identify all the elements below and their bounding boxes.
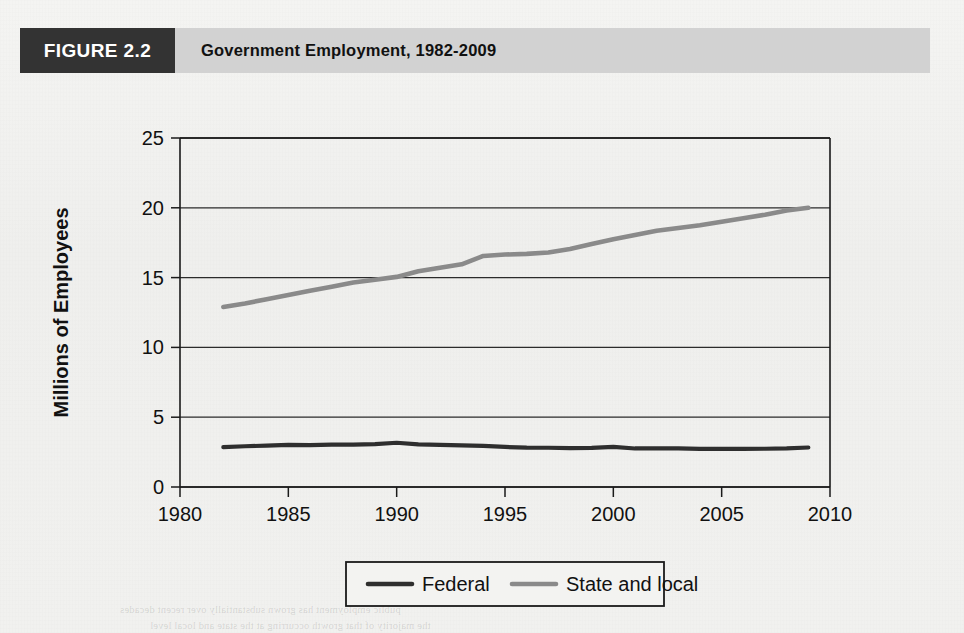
legend-label-1: State and local: [566, 573, 698, 595]
xtick-label-2000: 2000: [591, 503, 636, 525]
figure-header: FIGURE 2.2 Government Employment, 1982-2…: [20, 28, 930, 73]
ytick-label-25: 25: [142, 127, 164, 149]
xtick-label-2010: 2010: [808, 503, 853, 525]
axes-group: [171, 138, 830, 497]
figure-title: Government Employment, 1982-2009: [175, 28, 930, 73]
ytick-label-15: 15: [142, 267, 164, 289]
chart-legend: FederalState and local: [346, 562, 698, 606]
legend-label-0: Federal: [422, 573, 490, 595]
xtick-label-1995: 1995: [483, 503, 528, 525]
y-axis-title-group: Millions of Employees: [50, 207, 72, 417]
series-line-federal: [223, 443, 808, 449]
xtick-label-2005: 2005: [699, 503, 744, 525]
ytick-label-0: 0: [153, 476, 164, 498]
line-chart: 05101520251980198519901995200020052010 M…: [0, 80, 964, 633]
data-series-group: [223, 208, 808, 449]
ytick-label-10: 10: [142, 336, 164, 358]
xtick-label-1980: 1980: [158, 503, 203, 525]
xtick-label-1990: 1990: [374, 503, 419, 525]
grid-lines-group: [180, 138, 830, 487]
tick-labels-group: 05101520251980198519901995200020052010: [142, 127, 853, 525]
series-line-state-and-local: [223, 208, 808, 307]
ytick-label-20: 20: [142, 197, 164, 219]
xtick-label-1985: 1985: [266, 503, 311, 525]
chart-container: 05101520251980198519901995200020052010 M…: [0, 80, 964, 633]
y-axis-title: Millions of Employees: [50, 207, 72, 417]
figure-number-badge: FIGURE 2.2: [20, 28, 175, 73]
ytick-label-5: 5: [153, 406, 164, 428]
